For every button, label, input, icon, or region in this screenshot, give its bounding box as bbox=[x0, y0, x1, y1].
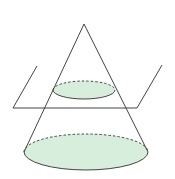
cross-section bbox=[53, 81, 115, 99]
cone-base bbox=[24, 134, 148, 170]
cone-plane-diagram bbox=[0, 0, 175, 179]
